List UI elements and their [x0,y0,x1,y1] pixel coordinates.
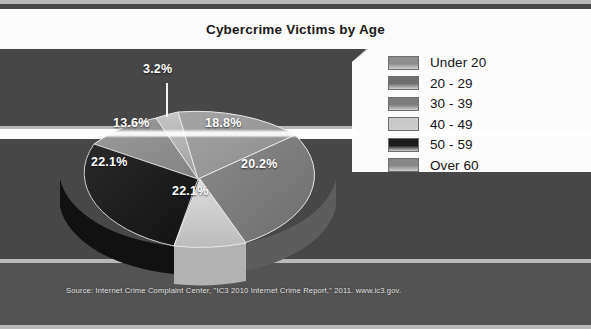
legend-swatch [388,97,419,111]
legend-item-list: Under 2020 - 2930 - 3940 - 4950 - 59Over… [388,53,486,176]
chart-figure: Cybercrime Victims by Age [0,0,591,329]
legend-item[interactable]: 30 - 39 [388,94,486,113]
pie-svg [48,61,348,296]
legend-swatch [388,158,419,172]
pie-slice-side-40-49 [174,243,246,285]
legend-item[interactable]: 50 - 59 [388,135,486,154]
legend-item[interactable]: 20 - 29 [388,74,486,93]
slice-label-30-39: 20.2% [241,157,277,171]
slice-label-40-49: 22.1% [172,184,208,198]
legend-swatch [388,138,419,152]
legend-label: Over 60 [430,158,479,173]
legend-label: Under 20 [430,55,486,70]
legend-label: 50 - 59 [430,137,473,152]
slice-label-50-59: 22.1% [91,155,127,169]
legend-label: 30 - 39 [430,96,473,111]
legend-label: 40 - 49 [430,117,473,132]
legend-swatch [388,56,419,70]
title-banner: Cybercrime Victims by Age [0,9,591,49]
legend-label: 20 - 29 [430,76,473,91]
legend-swatch [388,117,419,131]
pie-chart: 3.2% 18.8% 20.2% 22.1% 22.1% 13.6% [48,61,348,296]
leader-line-under-20 [166,83,168,117]
legend-item[interactable]: Under 20 [388,53,486,72]
slice-label-20-29: 18.8% [205,116,241,130]
legend-item[interactable]: Over 60 [388,156,486,175]
page-title: Cybercrime Victims by Age [206,22,385,37]
source-note: Source: Internet Crime Complaint Center,… [66,286,401,295]
legend: Under 2020 - 2930 - 3940 - 4950 - 59Over… [352,40,591,172]
legend-swatch [388,76,419,90]
legend-item[interactable]: 40 - 49 [388,115,486,134]
slice-label-over-60: 13.6% [113,116,149,130]
slice-label-under-20: 3.2% [143,62,172,76]
